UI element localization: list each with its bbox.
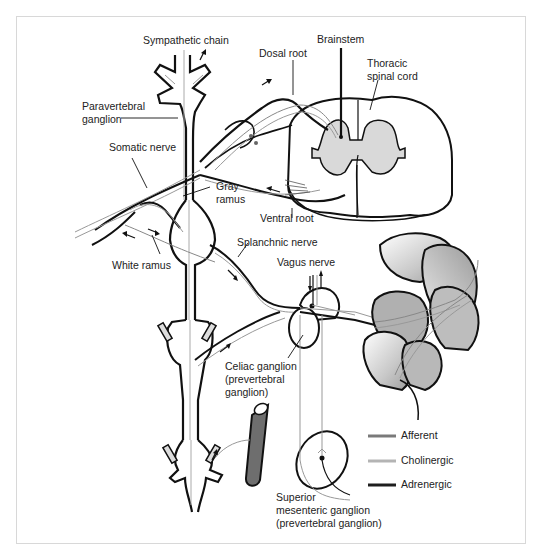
label-paravertebral-ganglion: Paravertebral ganglion — [82, 100, 145, 126]
legend-label-cholinergic: Cholinergic — [401, 454, 454, 467]
legend-swatches — [368, 436, 396, 485]
celiac-ganglion — [289, 288, 375, 348]
label-white-ramus: White ramus — [112, 259, 171, 272]
label-splanchnic-nerve: Splanchnic nerve — [237, 236, 318, 249]
label-thoracic-spinal-cord: Thoracic spinal cord — [367, 57, 418, 83]
intestine — [363, 233, 478, 420]
label-ventral-root: Ventral root — [260, 212, 314, 225]
label-somatic-nerve: Somatic nerve — [109, 141, 176, 154]
legend-label-afferent: Afferent — [401, 429, 438, 442]
label-celiac-ganglion: Celiac ganglion (prevertebral ganglion) — [225, 360, 297, 399]
autonomic-nervous-system-diagram — [0, 0, 542, 559]
label-gray-ramus: Gray ramus — [216, 180, 245, 206]
label-dosal-root: Dosal root — [259, 47, 307, 60]
blood-vessel — [212, 401, 270, 486]
label-brainstem: Brainstem — [317, 33, 364, 46]
label-sympathetic-chain: Sympathetic chain — [143, 34, 229, 47]
legend-label-adrenergic: Adrenergic — [401, 478, 452, 491]
label-vagus-nerve: Vagus nerve — [277, 256, 335, 269]
label-superior-mesenteric-ganglion: Superior mesenteric ganglion (prevertebr… — [276, 491, 382, 530]
